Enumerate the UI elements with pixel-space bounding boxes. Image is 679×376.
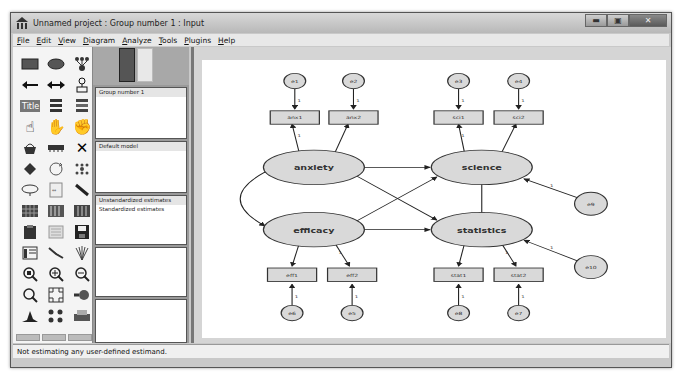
menu-view[interactable]: View: [58, 36, 76, 45]
deselect-all-icon[interactable]: ✊: [69, 116, 95, 137]
error-label: e6: [288, 311, 296, 316]
draw-unobserved-variable-icon[interactable]: [43, 53, 69, 74]
calculate-estimates-icon[interactable]: [69, 200, 95, 221]
path-label: 1: [505, 250, 508, 254]
error-label: e2: [350, 79, 358, 84]
observed-label: anx1: [287, 115, 302, 120]
path-label: 1: [461, 99, 464, 103]
group-item[interactable]: Group number 1: [96, 88, 186, 97]
observed-label: stat2: [511, 273, 527, 278]
loupe-icon[interactable]: [69, 284, 95, 305]
observed-label: sci2: [513, 115, 525, 120]
object-properties-icon[interactable]: [17, 242, 43, 263]
model-item[interactable]: Default model: [96, 142, 186, 151]
touch-up-icon[interactable]: [69, 179, 95, 200]
copy-to-clipboard-icon[interactable]: [17, 221, 43, 242]
files-panel: [95, 299, 187, 343]
maximize-button[interactable]: ▣: [607, 14, 629, 27]
path-label: 1: [550, 183, 553, 187]
toolbox: Title ☝ ✋ ✊ ✕ ↔: [13, 47, 93, 343]
select-data-files-icon[interactable]: [17, 200, 43, 221]
menu-help[interactable]: Help: [218, 36, 235, 45]
path-label: 1: [461, 133, 464, 137]
erase-icon[interactable]: ✕: [69, 137, 95, 158]
preserve-symmetries-icon[interactable]: [69, 242, 95, 263]
amos-window: Unnamed project : Group number 1 : Input…: [10, 12, 672, 368]
latent-label: science: [462, 164, 502, 172]
select-one-object-icon[interactable]: ☝: [17, 116, 43, 137]
svg-text:↔: ↔: [52, 187, 56, 193]
latent-label: efficacy: [293, 226, 335, 234]
list-variables-in-model-icon[interactable]: [43, 95, 69, 116]
move-icon[interactable]: [43, 137, 69, 158]
fit-to-page-icon[interactable]: [43, 284, 69, 305]
scroll-icon[interactable]: ↔: [43, 179, 69, 200]
menu-tools[interactable]: Tools: [159, 36, 177, 45]
estimate-item-unstandardized[interactable]: Unstandardized estimates: [96, 196, 186, 205]
figure-caption-icon[interactable]: Title: [17, 95, 43, 116]
svg-text:Title: Title: [21, 102, 39, 111]
error-label: e7: [515, 311, 523, 316]
list-variables-in-dataset-icon[interactable]: [69, 95, 95, 116]
view-text-icon[interactable]: [43, 221, 69, 242]
minimize-button[interactable]: ▬: [585, 14, 607, 27]
path-diagram-canvas[interactable]: 1 1 1 1 1 1 1 1 1 1 1 1 1 1: [202, 60, 666, 338]
save-diagram-icon[interactable]: [69, 221, 95, 242]
move-parameter-icon[interactable]: [17, 179, 43, 200]
close-icon: ✕: [645, 16, 652, 25]
view-output-path-diagram-button[interactable]: [137, 48, 153, 82]
change-shape-icon[interactable]: [17, 158, 43, 179]
duplicate-icon[interactable]: [17, 137, 43, 158]
path-label: 1: [298, 99, 301, 103]
estimates-panel: Unstandardized estimates Standardized es…: [95, 195, 187, 245]
draw-covariance-icon[interactable]: [43, 74, 69, 95]
bayesian-icon[interactable]: [17, 305, 43, 326]
drag-properties-icon[interactable]: [43, 242, 69, 263]
view-input-path-diagram-button[interactable]: [119, 48, 135, 82]
maximize-icon: ▣: [614, 16, 622, 25]
window-title: Unnamed project : Group number 1 : Input: [33, 19, 204, 28]
zoom-page-icon[interactable]: [17, 284, 43, 305]
menu-plugins[interactable]: Plugins: [184, 36, 211, 45]
menu-edit[interactable]: Edit: [37, 36, 52, 45]
path-label: 1: [550, 246, 553, 250]
draw-path-icon[interactable]: [17, 74, 43, 95]
error-label: e10: [585, 265, 597, 270]
computation-summary-panel: [95, 247, 187, 297]
add-unique-variable-icon[interactable]: [69, 74, 95, 95]
observed-label: eff2: [346, 273, 358, 278]
multiple-group-icon[interactable]: [43, 305, 69, 326]
status-bar: Not estimating any user-defined estimand…: [13, 344, 669, 358]
path-diagram: 1 1 1 1 1 1 1 1 1 1 1 1 1 1: [202, 60, 666, 338]
amos-app-icon: [15, 17, 29, 29]
zoom-in-icon[interactable]: [43, 263, 69, 284]
select-all-objects-icon[interactable]: ✋: [43, 116, 69, 137]
minimize-icon: ▬: [592, 16, 600, 25]
path-label: 1: [298, 133, 301, 137]
menu-file[interactable]: File: [17, 36, 30, 45]
groups-panel: Group number 1: [95, 87, 187, 139]
title-bar: Unnamed project : Group number 1 : Input…: [11, 13, 671, 33]
menu-diagram[interactable]: Diagram: [83, 36, 115, 45]
print-icon[interactable]: [69, 305, 95, 326]
path-label: 1: [461, 294, 464, 298]
analysis-properties-icon[interactable]: [43, 200, 69, 221]
error-label: e5: [348, 311, 356, 316]
reflect-indicators-icon[interactable]: [69, 158, 95, 179]
zoom-out-icon[interactable]: [69, 263, 95, 284]
path-label: 1: [521, 294, 524, 298]
menu-analyze[interactable]: Analyze: [122, 36, 152, 45]
rotate-indicators-icon[interactable]: [43, 158, 69, 179]
zoom-area-icon[interactable]: [17, 263, 43, 284]
path-label: 1: [355, 294, 358, 298]
close-button[interactable]: ✕: [629, 14, 667, 27]
observed-label: anx2: [346, 115, 361, 120]
estimate-item-standardized[interactable]: Standardized estimates: [96, 205, 186, 214]
error-label: e4: [515, 79, 523, 84]
error-label: e3: [455, 79, 463, 84]
path-label: 1: [356, 99, 359, 103]
draw-latent-indicator-icon[interactable]: [69, 53, 95, 74]
error-label: e1: [291, 79, 299, 84]
toolbox-scroll[interactable]: [16, 334, 92, 341]
draw-observed-variable-icon[interactable]: [17, 53, 43, 74]
